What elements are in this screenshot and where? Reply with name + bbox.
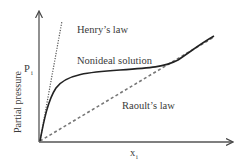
y-axis-label: Partial pressure bbox=[12, 71, 23, 133]
vapor-pressure-diagram: Henry’s law Nonideal solution Raoult’s l… bbox=[0, 0, 242, 167]
y-symbol: P bbox=[24, 63, 30, 74]
raoults-law-label: Raoult’s law bbox=[122, 100, 175, 111]
diagram-canvas: Henry’s law Nonideal solution Raoult’s l… bbox=[0, 0, 242, 167]
henrys-law-label: Henry’s law bbox=[77, 24, 128, 35]
x-symbol-subscript: i bbox=[136, 153, 138, 160]
y-symbol-subscript: i bbox=[31, 69, 33, 76]
nonideal-solution-label: Nonideal solution bbox=[77, 55, 153, 66]
